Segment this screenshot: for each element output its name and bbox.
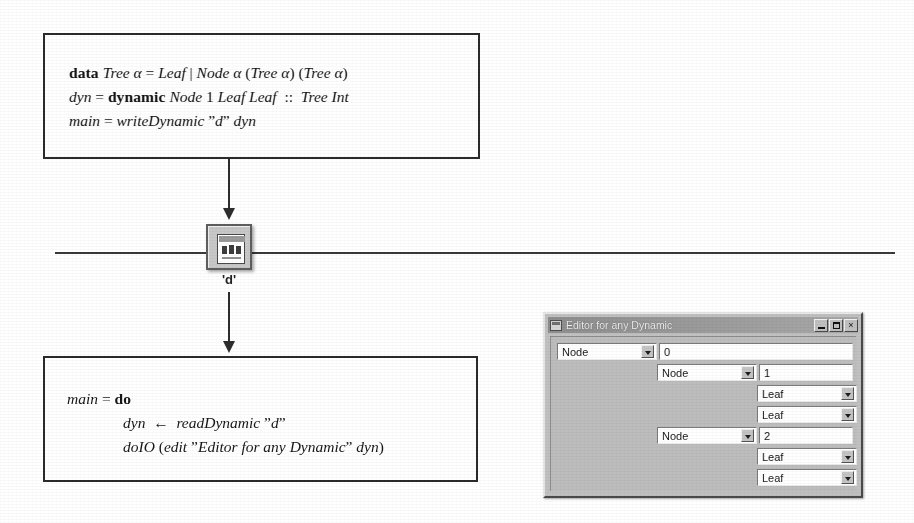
code-token: Leaf [158, 64, 186, 81]
editor-window-title: Editor for any Dynamic [566, 319, 813, 331]
code-token: 1 [206, 88, 214, 105]
bottom-code-line-2: dyn ← readDynamic ”d” [67, 410, 384, 434]
code-token: Node [197, 64, 234, 81]
constructor-combo-row-left-leaf-2[interactable]: Leaf [757, 406, 857, 423]
integer-field-row-right-node[interactable]: 2 [759, 427, 853, 444]
top-code-listing: data Tree α = Leaf | Node α (Tree α) (Tr… [69, 61, 349, 133]
code-token: Tree Int [301, 88, 349, 105]
figure-canvas: data Tree α = Leaf | Node α (Tree α) (Tr… [0, 0, 914, 523]
constructor-combo-value: Leaf [758, 472, 841, 484]
code-token: | [186, 64, 197, 81]
window-system-menu-icon[interactable] [550, 320, 562, 331]
code-token: = [98, 390, 115, 407]
code-token: Tree [304, 64, 335, 81]
constructor-combo-value: Leaf [758, 388, 841, 400]
bottom-code-box: main = dodyn ← readDynamic ”d”doIO (edit… [43, 356, 478, 482]
code-token: = [100, 112, 117, 129]
editor-window[interactable]: Editor for any Dynamic × Node0Node1LeafL… [543, 312, 863, 498]
integer-field-value: 2 [760, 430, 770, 442]
code-token: d [271, 414, 279, 431]
dynamic-file-label: 'd' [188, 272, 270, 287]
code-token: do [115, 390, 132, 407]
dynamic-file-icon[interactable] [206, 224, 252, 270]
code-token: dynamic [108, 88, 170, 105]
bottom-code-line-3: doIO (edit ”Editor for any Dynamic” dyn) [67, 434, 384, 458]
dynamic-file-icon-glyph-4 [222, 257, 241, 259]
arrow-write-dynamic [228, 159, 230, 213]
code-token: Leaf Leaf [218, 88, 277, 105]
persistent-storage-line [55, 252, 895, 254]
dynamic-file-icon-glyph-2 [229, 245, 234, 254]
code-token: writeDynamic [117, 112, 205, 129]
integer-field-value: 0 [660, 346, 670, 358]
code-token: dyn [69, 88, 91, 105]
code-token: ” [346, 438, 357, 455]
code-token: data [69, 64, 103, 81]
code-token: ) ( [289, 64, 303, 81]
code-token: dyn [234, 112, 256, 129]
constructor-combo-value: Node [658, 430, 741, 442]
code-token: ” [279, 414, 286, 431]
chevron-down-icon[interactable] [741, 366, 754, 379]
arrow-read-dynamic [228, 292, 230, 344]
dynamic-file-icon-page [217, 234, 245, 264]
chevron-down-icon[interactable] [841, 408, 854, 421]
code-token: main [69, 112, 100, 129]
constructor-combo-value: Leaf [758, 409, 841, 421]
arrow-write-dynamic-head [223, 208, 235, 220]
code-token: ” [260, 414, 271, 431]
dynamic-file-icon-glyph-3 [236, 246, 241, 254]
code-token: Tree [103, 64, 134, 81]
code-token: edit [164, 438, 187, 455]
code-token: dyn [356, 438, 378, 455]
code-token: Editor for any Dynamic [198, 438, 346, 455]
constructor-combo-value: Leaf [758, 451, 841, 463]
code-token: = [91, 88, 108, 105]
top-code-box: data Tree α = Leaf | Node α (Tree α) (Tr… [43, 33, 480, 159]
editor-client-area: Node0Node1LeafLeafNode2LeafLeaf [550, 336, 856, 491]
chevron-down-icon[interactable] [841, 471, 854, 484]
code-token: ) [343, 64, 348, 81]
constructor-combo-row-left-node[interactable]: Node [657, 364, 757, 381]
constructor-combo-value: Node [558, 346, 641, 358]
code-token: ) [379, 438, 384, 455]
code-token: Tree [250, 64, 281, 81]
minimize-button[interactable] [814, 319, 828, 332]
constructor-combo-row-right-node[interactable]: Node [657, 427, 757, 444]
code-token: ← [145, 414, 176, 431]
dynamic-file-icon-glyph-1 [222, 246, 227, 254]
top-code-line-2: dyn = dynamic Node 1 Leaf Leaf :: Tree I… [69, 85, 349, 109]
constructor-combo-row-root[interactable]: Node [557, 343, 657, 360]
constructor-combo-value: Node [658, 367, 741, 379]
code-token: ( [155, 438, 164, 455]
integer-field-row-root[interactable]: 0 [659, 343, 853, 360]
code-token: = [142, 64, 159, 81]
code-token: main [67, 390, 98, 407]
code-token: Node [169, 88, 206, 105]
chevron-down-icon[interactable] [841, 450, 854, 463]
constructor-combo-row-left-leaf-1[interactable]: Leaf [757, 385, 857, 402]
code-token: ” [223, 112, 234, 129]
maximize-button[interactable] [829, 319, 843, 332]
bottom-code-listing: main = dodyn ← readDynamic ”d”doIO (edit… [67, 386, 384, 458]
top-code-line-1: data Tree α = Leaf | Node α (Tree α) (Tr… [69, 61, 349, 85]
code-token: ” [187, 438, 198, 455]
constructor-combo-row-right-leaf-1[interactable]: Leaf [757, 448, 857, 465]
dynamic-file-icon-frame [206, 224, 252, 270]
dynamic-file-icon-titlebar [219, 236, 245, 242]
chevron-down-icon[interactable] [841, 387, 854, 400]
integer-field-value: 1 [760, 367, 770, 379]
arrow-read-dynamic-head [223, 341, 235, 353]
constructor-combo-row-right-leaf-2[interactable]: Leaf [757, 469, 857, 486]
code-token: d [215, 112, 223, 129]
close-button[interactable]: × [844, 319, 858, 332]
chevron-down-icon[interactable] [741, 429, 754, 442]
bottom-code-line-1: main = do [67, 386, 384, 410]
chevron-down-icon[interactable] [641, 345, 654, 358]
code-token: ” [204, 112, 215, 129]
code-token: α [334, 64, 342, 81]
integer-field-row-left-node[interactable]: 1 [759, 364, 853, 381]
code-token: readDynamic [176, 414, 260, 431]
editor-titlebar[interactable]: Editor for any Dynamic × [548, 317, 858, 333]
code-token: dyn [123, 414, 145, 431]
